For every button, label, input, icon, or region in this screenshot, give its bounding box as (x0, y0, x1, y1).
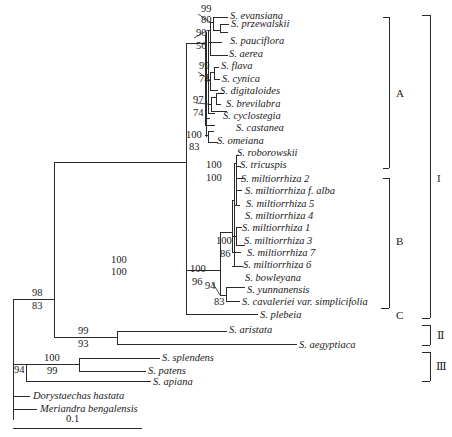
group-label-ii: Ⅱ (437, 330, 444, 341)
taxon-label: S. miltiorrhiza 6 (243, 260, 311, 271)
support-value: 80 (201, 15, 212, 26)
support-value: 56 (196, 41, 207, 52)
taxon-label: S. miltiorrhiza 2 (241, 174, 309, 185)
taxon-label: S. castanea (236, 123, 284, 134)
taxon-label: S. miltiorrhiza 4 (245, 211, 313, 222)
support-value: 94 (14, 365, 25, 376)
taxon-label: Meriandra bengalensis (40, 404, 138, 415)
taxon-label: S. splendens (162, 353, 214, 364)
taxon-label: S. cynica (222, 74, 260, 85)
support-value: 83 (32, 301, 43, 312)
support-value: 100 (216, 236, 232, 247)
taxon-label: S. aerea (229, 49, 263, 60)
support-value: 100 (44, 353, 60, 364)
support-value: 100 (111, 255, 127, 266)
support-value: 99 (47, 366, 58, 377)
support-value: 100 (206, 173, 222, 184)
taxon-label: S. patens (148, 366, 186, 377)
support-value: 96 (192, 277, 203, 288)
group-label-iii: Ⅲ (436, 361, 447, 372)
support-value: 74 (199, 74, 210, 85)
taxon-label: S. tricuspis (240, 160, 287, 171)
support-value: 100 (111, 267, 127, 278)
support-value: 94 (205, 281, 216, 292)
taxon-label: S. roborowskii (237, 148, 297, 159)
support-value: 83 (189, 142, 200, 153)
taxon-label: S. aegyptiaca (299, 340, 356, 351)
support-value: 97 (193, 95, 204, 106)
support-value: 100 (206, 160, 222, 171)
group-label-b: B (396, 236, 403, 247)
taxon-label: S. plebeia (260, 310, 301, 321)
support-value: 98 (32, 288, 43, 299)
group-label-c: C (396, 310, 403, 321)
support-value: 100 (190, 264, 206, 275)
taxon-label: S. apiana (153, 377, 193, 388)
taxon-label: S. miltiorrhiza 7 (247, 248, 315, 259)
support-value: 99 (199, 61, 210, 72)
taxon-label: S. digitaloides (220, 86, 280, 97)
support-value: 99 (78, 326, 89, 337)
taxon-label: S. miltiorrhiza 5 (246, 199, 314, 210)
taxon-label: S. miltiorrhiza f. alba (245, 186, 335, 197)
taxon-label: S. flava (221, 61, 253, 72)
support-value: 90 (196, 28, 207, 39)
taxon-label: S. omeiana (217, 136, 264, 147)
group-label-i: I (437, 173, 441, 184)
taxon-label: S. cavaleriei var. simplicifolia (242, 297, 368, 308)
taxon-label: Dorystaechas hastata (33, 391, 124, 402)
taxon-label: S. pauciflora (230, 36, 284, 47)
taxon-label: S. cyclostegia (223, 111, 281, 122)
support-value: 100 (186, 130, 202, 141)
taxon-label: S. brevilabra (226, 99, 280, 110)
taxon-label: S. przewalskii (231, 19, 289, 30)
scale-bar-label: 0.1 (66, 414, 79, 425)
taxon-label: S. bowleyana (245, 273, 301, 284)
support-value: 93 (78, 339, 89, 350)
taxon-label: S. miltiorrhiza 1 (242, 223, 310, 234)
taxon-label: S. miltiorrhiza 3 (244, 236, 312, 247)
support-value: 86 (220, 249, 231, 260)
support-value: 99 (201, 4, 212, 15)
taxon-label: S. aristata (229, 325, 272, 336)
support-value: 83 (214, 297, 225, 308)
support-value: 74 (193, 108, 204, 119)
taxon-label: S. yunnanensis (247, 285, 309, 296)
group-label-a: A (396, 88, 404, 99)
